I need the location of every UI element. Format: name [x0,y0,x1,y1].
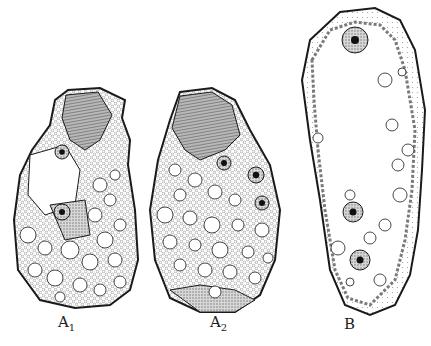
panel-a2-cell [150,88,280,312]
panel-a1-cell [14,88,138,308]
panel-label-a1: A1 [58,313,75,333]
panel-label-b: B [344,315,355,333]
figure-canvas [0,0,431,346]
panel-b-cell [302,8,425,315]
panel-label-a2: A2 [210,313,227,333]
